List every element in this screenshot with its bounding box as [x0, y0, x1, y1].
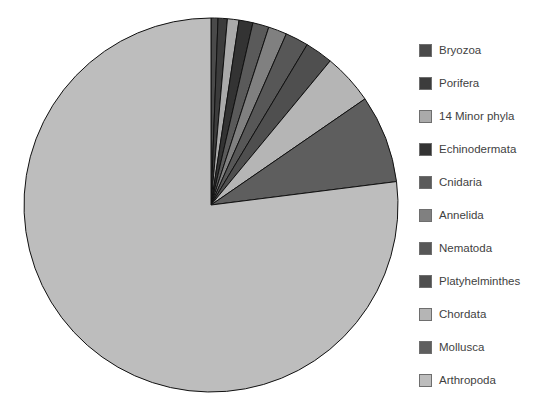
- legend-color-swatch: [419, 308, 432, 321]
- legend-item-label: Platyhelminthes: [439, 275, 520, 288]
- legend-item-label: Annelida: [439, 209, 484, 222]
- pie-slice-group: [24, 18, 398, 392]
- legend-item-label: Arthropoda: [439, 374, 496, 387]
- legend-item-label: Porifera: [439, 77, 479, 90]
- legend-item[interactable]: Arthropoda: [419, 364, 541, 397]
- legend-item-label: Echinodermata: [439, 143, 516, 156]
- legend-color-swatch: [419, 242, 432, 255]
- legend-color-swatch: [419, 176, 432, 189]
- legend-item[interactable]: Cnidaria: [419, 166, 541, 199]
- legend-item[interactable]: Porifera: [419, 67, 541, 100]
- legend-item[interactable]: Bryozoa: [419, 34, 541, 67]
- legend-color-swatch: [419, 341, 432, 354]
- legend-item[interactable]: Echinodermata: [419, 133, 541, 166]
- legend-item-label: Chordata: [439, 308, 486, 321]
- legend-item-label: Nematoda: [439, 242, 492, 255]
- legend-item-label: 14 Minor phyla: [439, 110, 514, 123]
- legend-color-swatch: [419, 209, 432, 222]
- legend-item-label: Cnidaria: [439, 176, 482, 189]
- legend-item[interactable]: Mollusca: [419, 331, 541, 364]
- legend-color-swatch: [419, 77, 432, 90]
- chart-legend: BryozoaPorifera14 Minor phylaEchinoderma…: [419, 34, 541, 384]
- legend-item[interactable]: Chordata: [419, 298, 541, 331]
- legend-item[interactable]: Platyhelminthes: [419, 265, 541, 298]
- pie-chart-area: [0, 0, 410, 406]
- pie-chart-page: BryozoaPorifera14 Minor phylaEchinoderma…: [0, 0, 541, 406]
- legend-item[interactable]: Annelida: [419, 199, 541, 232]
- legend-color-swatch: [419, 44, 432, 57]
- legend-color-swatch: [419, 275, 432, 288]
- legend-color-swatch: [419, 110, 432, 123]
- legend-item-label: Bryozoa: [439, 44, 481, 57]
- legend-item-label: Mollusca: [439, 341, 484, 354]
- legend-item[interactable]: Nematoda: [419, 232, 541, 265]
- legend-color-swatch: [419, 374, 432, 387]
- legend-color-swatch: [419, 143, 432, 156]
- legend-item[interactable]: 14 Minor phyla: [419, 100, 541, 133]
- pie-chart-svg: [0, 0, 410, 406]
